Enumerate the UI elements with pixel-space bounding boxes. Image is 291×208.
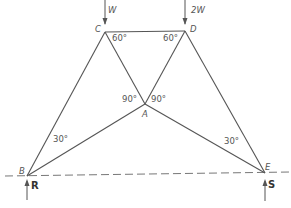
load-label-2w: 2W [191, 6, 205, 15]
member-bc [27, 32, 105, 176]
truss-drawing [0, 0, 291, 208]
node-label-e: E [265, 163, 270, 172]
member-ba [27, 104, 145, 176]
angle-label-c: 60° [112, 34, 127, 43]
reaction-label-r: R [31, 181, 39, 191]
angle-label-a-right: 90° [151, 95, 166, 104]
truss-diagram: C D A B E W 2W R S 60° 60° 90° 90° 30° 3… [0, 0, 291, 208]
angle-label-b: 30° [53, 135, 68, 144]
member-ae [145, 104, 265, 173]
reaction-label-s: S [268, 180, 275, 190]
angle-label-d: 60° [163, 34, 178, 43]
node-label-b: B [19, 167, 25, 176]
load-label-w: W [108, 6, 116, 15]
member-de [185, 31, 265, 173]
node-label-d: D [190, 25, 197, 34]
member-cd [105, 31, 185, 32]
angle-label-e: 30° [224, 137, 239, 146]
support-dashed-line [5, 172, 291, 176]
node-label-a: A [142, 110, 148, 119]
angle-label-a-left: 90° [122, 95, 137, 104]
node-label-c: C [95, 25, 101, 34]
